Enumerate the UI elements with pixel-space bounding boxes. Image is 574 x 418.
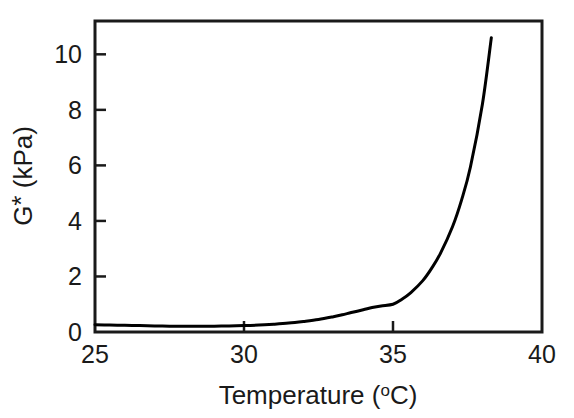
y-tick-label: 4 bbox=[68, 207, 82, 235]
y-axis-title: G* (kPa) bbox=[6, 126, 38, 226]
y-tick-label: 0 bbox=[68, 318, 82, 346]
chart-figure: 25303540 0246810 Temperature (oC) G* (kP… bbox=[0, 0, 574, 418]
chart-canvas: 25303540 0246810 Temperature (oC) G* (kP… bbox=[0, 0, 574, 418]
x-tick-label: 35 bbox=[379, 340, 407, 368]
y-tick-label: 8 bbox=[68, 96, 82, 124]
y-tick-label: 2 bbox=[68, 262, 82, 290]
x-tick-label: 30 bbox=[230, 340, 258, 368]
y-tick-label: 10 bbox=[54, 40, 82, 68]
y-tick-label: 6 bbox=[68, 151, 82, 179]
x-tick-label: 40 bbox=[528, 340, 556, 368]
x-tick-label: 25 bbox=[81, 340, 109, 368]
